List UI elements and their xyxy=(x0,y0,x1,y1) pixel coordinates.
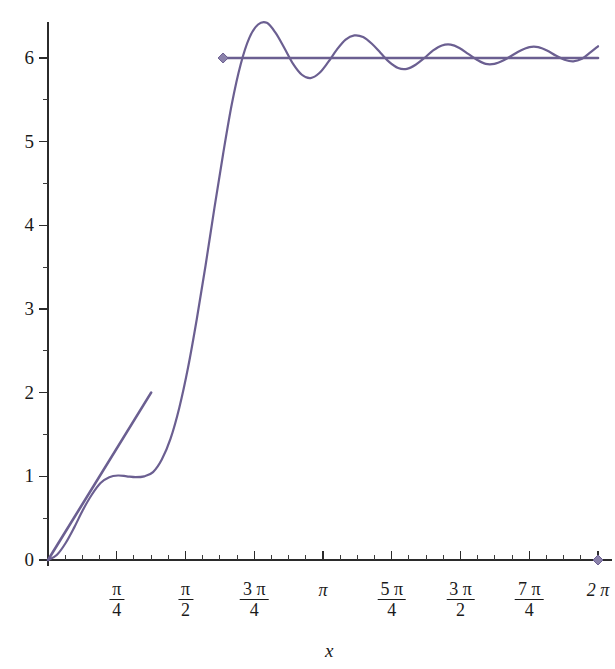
y-tick-label: 1 xyxy=(25,465,35,487)
x-tick-label: π2 xyxy=(178,580,193,619)
x-tick-label: 5 π4 xyxy=(377,580,406,619)
fraction-numerator: 3 π xyxy=(446,580,475,600)
fraction-numerator: 5 π xyxy=(377,580,406,600)
fraction-numerator: 7 π xyxy=(515,580,544,600)
fraction-denominator: 4 xyxy=(109,600,124,619)
x-tick-label: 3 π4 xyxy=(240,580,269,619)
y-tick-label: 4 xyxy=(25,214,35,236)
fraction-denominator: 4 xyxy=(515,600,544,619)
x-tick-label: 2 π xyxy=(587,580,610,601)
x-axis-title: x xyxy=(325,640,333,662)
x-tick-label: 3 π2 xyxy=(446,580,475,619)
y-tick-label: 6 xyxy=(25,47,35,69)
x-tick-label: π4 xyxy=(109,580,124,619)
y-tick-label: 0 xyxy=(25,549,35,571)
x-tick-label: 7 π4 xyxy=(515,580,544,619)
fraction-denominator: 2 xyxy=(178,600,193,619)
chart-canvas: 0123456π4π23 π4π5 π43 π27 π42 π x xyxy=(0,0,615,669)
fraction-numerator: 3 π xyxy=(240,580,269,600)
plot-area xyxy=(0,0,615,669)
series-fourier-partial-sum xyxy=(48,22,598,560)
x-tick-label: π xyxy=(318,580,327,601)
fraction-denominator: 4 xyxy=(240,600,269,619)
y-tick-label: 3 xyxy=(25,298,35,320)
y-tick-label: 2 xyxy=(25,382,35,404)
fraction-numerator: π xyxy=(178,580,193,600)
fraction-denominator: 4 xyxy=(377,600,406,619)
marker-right-endpoint-marker xyxy=(593,555,603,565)
fraction-numerator: π xyxy=(109,580,124,600)
fraction-denominator: 2 xyxy=(446,600,475,619)
y-tick-label: 5 xyxy=(25,131,35,153)
marker-left-endpoint-marker xyxy=(218,53,228,63)
